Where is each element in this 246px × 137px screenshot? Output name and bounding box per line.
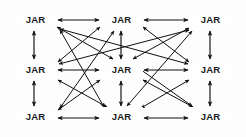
jar-node-label: JAR: [26, 112, 46, 122]
jar-node[interactable]: JAR: [14, 10, 57, 30]
jar-node-label: JAR: [201, 112, 221, 122]
jar-node[interactable]: JAR: [189, 10, 232, 30]
jar-node[interactable]: JAR: [100, 10, 143, 30]
dependency-arrow: [58, 80, 107, 107]
jar-node-label: JAR: [112, 65, 132, 75]
jar-node[interactable]: JAR: [100, 60, 143, 80]
jar-node-label: JAR: [201, 65, 221, 75]
dependency-arrow: [58, 27, 100, 62]
jar-dependency-diagram: JAR JAR JAR JAR JAR JAR JAR JAR JAR: [0, 0, 246, 137]
jar-node[interactable]: JAR: [189, 107, 232, 127]
dependency-arrow: [57, 27, 113, 59]
jar-node[interactable]: JAR: [14, 107, 57, 127]
jar-node[interactable]: JAR: [189, 60, 232, 80]
jar-node-label: JAR: [112, 15, 132, 25]
jar-node-label: JAR: [112, 112, 132, 122]
jar-node-label: JAR: [26, 65, 46, 75]
jar-node[interactable]: JAR: [14, 60, 57, 80]
jar-node-label: JAR: [26, 15, 46, 25]
jar-node[interactable]: JAR: [100, 107, 143, 127]
jar-node-label: JAR: [201, 15, 221, 25]
dependency-arrow: [58, 80, 100, 110]
dependency-arrow: [141, 80, 189, 108]
